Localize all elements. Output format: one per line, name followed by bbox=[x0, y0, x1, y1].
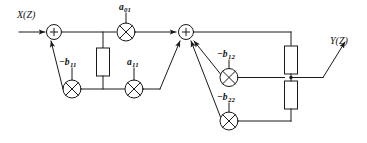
coefficient-label-a11: a11 bbox=[127, 58, 138, 68]
signal-flow-diagram: X(Z) Y(Z) a01 a11 −b11 −b12 −b22 bbox=[0, 0, 367, 143]
wire-a11-to-summer2 bbox=[160, 41, 180, 89]
b12-base: b bbox=[223, 49, 228, 59]
coefficient-label-b11: −b11 bbox=[59, 58, 76, 68]
b22-base: b bbox=[223, 92, 228, 102]
coefficient-label-b12: −b12 bbox=[217, 50, 235, 60]
delay-block-right-upper bbox=[285, 46, 298, 74]
coefficient-label-a01: a01 bbox=[119, 3, 131, 13]
coefficient-label-b22: −b22 bbox=[217, 93, 235, 103]
delay-block-left bbox=[97, 48, 110, 76]
input-label: X(Z) bbox=[17, 10, 35, 20]
wire-output-arrow bbox=[323, 42, 345, 78]
b11-sub: 11 bbox=[70, 61, 77, 68]
delay-block-right-lower bbox=[285, 81, 298, 109]
b22-sub: 22 bbox=[228, 96, 235, 103]
a01-sub: 01 bbox=[124, 6, 131, 13]
a11-sub: 11 bbox=[132, 61, 139, 68]
b12-sub: 12 bbox=[228, 53, 235, 60]
diagram-canvas bbox=[0, 0, 367, 143]
output-label: Y(Z) bbox=[330, 36, 348, 46]
b11-base: b bbox=[65, 57, 70, 67]
